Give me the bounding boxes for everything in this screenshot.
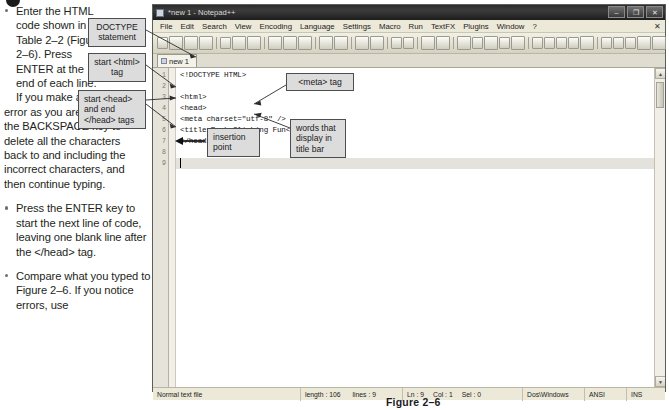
next-icon[interactable] (625, 37, 636, 49)
close-all-icon[interactable] (232, 36, 246, 50)
menu-item-settings[interactable]: Settings (339, 22, 375, 31)
run-icon[interactable] (637, 36, 651, 50)
all-chars-icon[interactable] (472, 37, 483, 49)
code-folding-margin[interactable] (169, 68, 176, 387)
line-number: 6 (153, 125, 168, 136)
status-eol-format: Dos\Windows (523, 388, 585, 401)
sum-icon[interactable] (601, 37, 612, 49)
code-text-area[interactable]: <!DOCTYPE HTML> <html> <head> <meta char… (176, 68, 665, 387)
fold-all-icon[interactable] (532, 37, 543, 49)
scrollbar-thumb[interactable] (656, 82, 664, 108)
callout-doctype-statement: DOCTYPE statement (88, 18, 146, 47)
replace-icon[interactable] (370, 36, 384, 50)
new-file-icon[interactable] (157, 37, 168, 49)
code-line-5: <meta charset="utf-8" /> (180, 114, 665, 125)
line-number: 3 (153, 92, 168, 103)
line-number: 7 (153, 136, 168, 147)
menu-item-edit[interactable]: Edit (177, 22, 198, 31)
line-number: 1 (153, 70, 168, 81)
previous-icon[interactable] (613, 37, 624, 49)
cut-icon[interactable] (268, 36, 282, 50)
menu-item-help[interactable]: ? (528, 22, 540, 31)
notepad-plus-plus-window: *new 1 - Notepad++ – ❐ ✕ File Edit Searc… (152, 4, 666, 392)
zoom-in-icon[interactable] (391, 37, 402, 49)
line-number-gutter: 1 2 3 4 5 6 7 8 9 (153, 68, 169, 387)
callout-insertion-point: insertion point (207, 128, 260, 157)
document-tab-bar: new 1 (153, 54, 665, 68)
menu-item-textfx[interactable]: TextFX (427, 22, 459, 31)
line-number: 9 (153, 158, 168, 169)
sync-horizontal-icon[interactable] (436, 36, 450, 50)
spellcheck-icon[interactable] (652, 36, 666, 50)
bullet-icon (5, 274, 8, 277)
stop-macro-icon[interactable] (568, 37, 579, 49)
bullet-icon (5, 206, 8, 209)
window-title: *new 1 - Notepad++ (168, 8, 236, 17)
menu-item-window[interactable]: Window (493, 22, 529, 31)
menu-item-view[interactable]: View (231, 22, 256, 31)
sync-vertical-icon[interactable] (421, 36, 435, 50)
menu-item-run[interactable]: Run (405, 22, 427, 31)
figure-caption: Figure 2–6 (386, 396, 441, 408)
code-line-3: <html> (180, 92, 665, 103)
bullet-icon (5, 9, 8, 12)
current-line-highlight (176, 158, 665, 169)
line-number: 4 (153, 103, 168, 114)
app-icon (156, 9, 164, 17)
toolbar-separator (313, 36, 318, 50)
toolbar-separator (214, 36, 219, 50)
toolbar-separator (415, 36, 420, 50)
callout-meta-tag: <meta> tag (286, 73, 354, 91)
menu-item-search[interactable]: Search (198, 22, 231, 31)
callout-title-bar-words: words that display in title bar (290, 119, 346, 158)
menu-item-file[interactable]: File (156, 22, 177, 31)
code-editor[interactable]: 1 2 3 4 5 6 7 8 9 <!DOCTYPE HTML> <html>… (153, 68, 665, 387)
close-icon[interactable] (220, 37, 231, 49)
line-number: 8 (153, 147, 168, 158)
toolbar-separator (349, 36, 354, 50)
figure-page: Enter the HTML code shown in Table 2–2 (… (0, 0, 669, 410)
word-wrap-icon[interactable] (457, 36, 471, 50)
ui-user-defined-icon[interactable] (499, 37, 510, 49)
close-button[interactable]: ✕ (646, 6, 663, 18)
close-document-icon[interactable]: ✕ (654, 22, 661, 31)
line-number: 2 (153, 81, 168, 92)
save-all-icon[interactable] (199, 36, 213, 50)
status-insert-mode: INS (627, 388, 665, 401)
redo-icon[interactable] (334, 36, 348, 50)
show-doc-map-icon[interactable] (511, 36, 525, 50)
undo-icon[interactable] (319, 36, 333, 50)
tab-label: new 1 (169, 57, 189, 66)
save-icon[interactable] (184, 36, 198, 50)
menu-bar: File Edit Search View Encoding Language … (153, 20, 665, 33)
step-3-text: Compare what you typed to Figure 2–6. If… (16, 270, 150, 311)
zoom-out-icon[interactable] (403, 37, 414, 49)
play-macro-icon[interactable] (580, 36, 594, 50)
window-controls: – ❐ ✕ (608, 6, 663, 18)
copy-icon[interactable] (283, 36, 297, 50)
scroll-down-arrow-icon[interactable]: ▼ (655, 376, 665, 387)
menu-item-language[interactable]: Language (296, 22, 339, 31)
menu-item-encoding[interactable]: Encoding (256, 22, 297, 31)
document-icon (161, 58, 167, 64)
record-macro-icon[interactable] (556, 37, 567, 49)
vertical-scrollbar[interactable]: ▲ ▼ (654, 68, 665, 387)
toolbar-separator (385, 36, 390, 50)
open-file-icon[interactable] (169, 36, 183, 50)
scroll-up-arrow-icon[interactable]: ▲ (655, 68, 665, 79)
find-icon[interactable] (355, 36, 369, 50)
unfold-all-icon[interactable] (544, 37, 555, 49)
maximize-button[interactable]: ❐ (627, 6, 644, 18)
toolbar-separator (526, 36, 531, 50)
line-number: 5 (153, 114, 168, 125)
menu-item-plugins[interactable]: Plugins (459, 22, 493, 31)
tab-new-1[interactable]: new 1 (157, 54, 197, 67)
toolbar-separator (262, 36, 267, 50)
indent-guide-icon[interactable] (484, 36, 498, 50)
callout-start-html-tag: start <html> tag (88, 53, 146, 82)
print-icon[interactable] (247, 36, 261, 50)
minimize-button[interactable]: – (608, 6, 625, 18)
menu-item-macro[interactable]: Macro (375, 22, 405, 31)
window-title-bar: *new 1 - Notepad++ – ❐ ✕ (153, 5, 665, 20)
paste-icon[interactable] (298, 36, 312, 50)
